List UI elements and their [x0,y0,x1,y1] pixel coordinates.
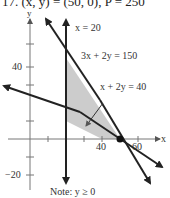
y-tick-label-40: 40 [12,61,22,72]
x-tick-label-40: 40 [96,141,106,152]
label-3x-2y-150: 3x + 2y = 150 [81,50,137,61]
label-x-eq-20: x = 20 [75,22,101,33]
note-text: Note: y ≥ 0 [50,186,95,197]
optimal-point [117,136,124,143]
x-axis-label: x [161,133,166,144]
x-tick-label-60: 60 [132,141,142,152]
feasible-region [66,58,120,139]
y-tick-label-neg20: −20 [5,169,21,180]
y-axis-label: y [27,8,32,18]
label-x-2y-40: x + 2y = 40 [100,81,146,92]
